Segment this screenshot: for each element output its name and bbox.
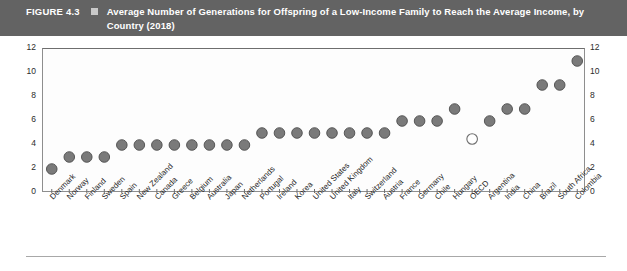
y-tick-label-right: 0 [590,187,618,196]
data-point[interactable] [309,128,320,139]
y-tick-label-right: 2 [590,163,618,172]
data-point[interactable] [362,128,373,139]
data-point[interactable] [414,116,425,127]
data-point[interactable] [554,80,565,91]
y-tick-label-left: 12 [8,43,36,52]
y-tick-label-right: 6 [590,115,618,124]
data-point[interactable] [537,80,548,91]
data-point[interactable] [187,140,198,151]
y-tick-label-right: 8 [590,91,618,100]
data-point[interactable] [502,104,513,115]
y-tick-label-left: 10 [8,67,36,76]
data-point[interactable] [152,140,163,151]
figure-container: FIGURE 4.3 Average Number of Generations… [0,0,627,271]
scatter-plot [43,49,586,193]
data-point[interactable] [134,140,145,151]
plot-area [42,48,585,192]
data-point[interactable] [239,140,250,151]
data-point[interactable] [292,128,303,139]
data-point[interactable] [344,128,355,139]
y-tick-label-left: 6 [8,115,36,124]
data-point[interactable] [99,152,110,163]
figure-number: FIGURE 4.3 [0,3,80,17]
data-point[interactable] [379,128,390,139]
data-point[interactable] [46,164,57,175]
data-point[interactable] [449,104,460,115]
bottom-divider [26,256,606,257]
data-point[interactable] [257,128,268,139]
data-point[interactable] [169,140,180,151]
data-point[interactable] [397,116,408,127]
data-point[interactable] [519,104,530,115]
y-tick-label-right: 4 [590,139,618,148]
y-tick-label-left: 0 [8,187,36,196]
data-point[interactable] [222,140,233,151]
data-point[interactable] [64,152,75,163]
data-point[interactable] [274,128,285,139]
data-point[interactable] [204,140,215,151]
data-point[interactable] [117,140,128,151]
figure-header: FIGURE 4.3 Average Number of Generations… [0,0,627,36]
data-point[interactable] [327,128,338,139]
data-point[interactable] [484,116,495,127]
data-point[interactable] [572,56,583,67]
square-bullet-icon [91,8,98,15]
y-tick-label-left: 2 [8,163,36,172]
y-tick-label-left: 4 [8,139,36,148]
x-axis-category-labels: DenmarkNorwayFinlandSwedenSpainNew Zeala… [42,193,585,265]
data-point[interactable] [432,116,443,127]
y-tick-label-right: 10 [590,67,618,76]
figure-title: Average Number of Generations for Offspr… [107,3,599,32]
y-tick-label-left: 8 [8,91,36,100]
data-point[interactable] [81,152,92,163]
y-tick-label-right: 12 [590,43,618,52]
data-point-highlighted[interactable] [467,134,478,145]
